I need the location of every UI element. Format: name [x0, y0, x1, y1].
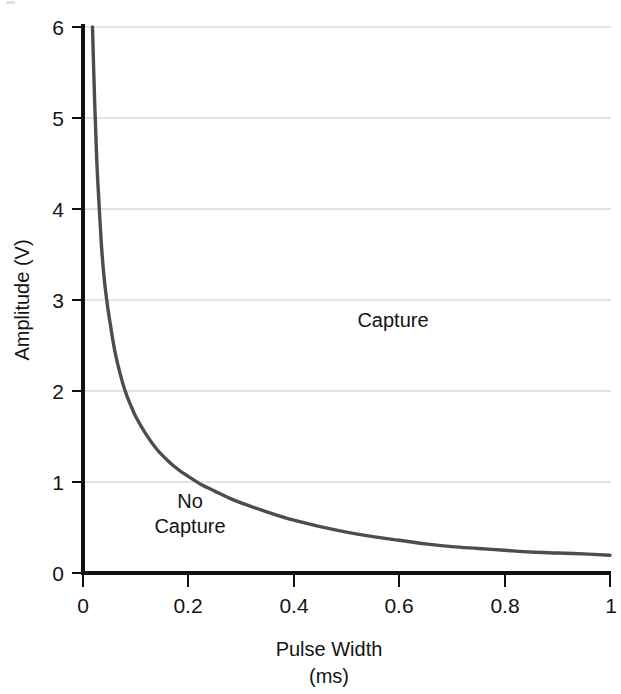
- x-axis-ticks: [83, 573, 610, 587]
- y-tick-label-4: 4: [52, 198, 64, 221]
- gridlines: [83, 27, 611, 482]
- y-axis-tick-labels: 6 5 4 3 2 1 0: [52, 16, 64, 585]
- x-tick-label-0.8: 0.8: [490, 594, 519, 617]
- region-annotations: Capture No Capture: [154, 309, 428, 537]
- x-axis-tick-labels: 0 0.2 0.4 0.6 0.8 1: [77, 594, 617, 617]
- capture-region-label: Capture: [357, 309, 428, 331]
- x-tick-label-1: 1: [605, 594, 617, 617]
- x-axis-units: (ms): [309, 665, 349, 687]
- strength-duration-curve: [92, 27, 610, 555]
- y-tick-label-2: 2: [52, 380, 64, 403]
- y-tick-label-5: 5: [52, 107, 64, 130]
- y-tick-label-3: 3: [52, 289, 64, 312]
- axis-titles: Amplitude (V) Pulse Width (ms): [11, 239, 382, 687]
- y-axis-title: Amplitude (V): [11, 239, 33, 360]
- x-tick-label-0: 0: [77, 594, 89, 617]
- data-series-strength-duration: [92, 27, 610, 555]
- x-tick-label-0.2: 0.2: [173, 594, 202, 617]
- x-tick-label-0.6: 0.6: [384, 594, 413, 617]
- strength-duration-chart: 6 5 4 3 2 1 0 0 0.2 0.4 0.6 0.8 1 Amplit…: [0, 0, 621, 694]
- y-tick-label-6: 6: [52, 16, 64, 39]
- y-tick-label-1: 1: [52, 471, 64, 494]
- y-tick-label-0: 0: [52, 562, 64, 585]
- no-capture-region-label-line2: Capture: [154, 515, 225, 537]
- x-axis-title: Pulse Width: [276, 638, 383, 660]
- chart-canvas: 6 5 4 3 2 1 0 0 0.2 0.4 0.6 0.8 1 Amplit…: [0, 0, 621, 694]
- x-tick-label-0.4: 0.4: [279, 594, 309, 617]
- no-capture-region-label-line1: No: [177, 490, 203, 512]
